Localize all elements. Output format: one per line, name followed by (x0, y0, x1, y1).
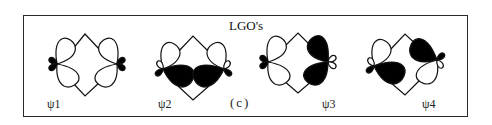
label-psi4: ψ4 (422, 97, 436, 112)
label-psi3: ψ3 (322, 97, 336, 112)
figure-caption: (c) (230, 95, 250, 111)
label-psi1: ψ1 (47, 97, 61, 112)
orbital-psi4 (364, 34, 446, 95)
orbital-psi1 (48, 34, 127, 96)
label-psi2: ψ2 (158, 97, 172, 112)
orbital-psi2 (153, 36, 234, 100)
orbital-psi3 (259, 32, 337, 93)
lgo-figure: LGO's (0, 0, 492, 125)
